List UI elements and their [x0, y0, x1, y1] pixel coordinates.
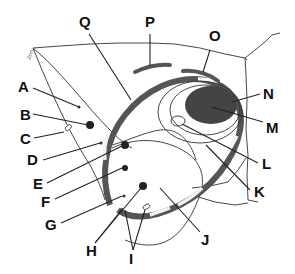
left-wedge-outer [33, 48, 105, 200]
diagram-canvas: 2cm [0, 0, 295, 274]
anatomical-diagram: 2cm [0, 0, 295, 274]
label-j: J [201, 231, 209, 248]
scale-bar-label: 2cm [25, 48, 34, 60]
lower-lobe-outline [112, 141, 203, 246]
label-o: O [209, 27, 221, 44]
label-q: Q [79, 13, 91, 30]
label-k: K [254, 183, 265, 200]
dark-mass [185, 86, 237, 124]
label-d: D [27, 151, 38, 168]
capsule-c [64, 124, 72, 132]
dot-g [122, 194, 125, 197]
label-m: M [266, 119, 279, 136]
dot-f [122, 165, 128, 171]
label-e: E [33, 175, 43, 192]
label-c: C [20, 130, 31, 147]
label-l: L [262, 155, 271, 172]
label-g: G [45, 216, 57, 233]
label-h: H [86, 242, 97, 259]
label-n: N [263, 85, 274, 102]
lower-right-contour [192, 158, 248, 205]
dot-e [121, 141, 129, 149]
arc-p [135, 65, 170, 72]
label-p: P [145, 13, 155, 30]
scale-bar: 2cm [25, 48, 34, 60]
label-i: I [129, 250, 133, 267]
left-wedge-inner [33, 48, 132, 148]
label-b: B [20, 106, 31, 123]
capsule-i [142, 203, 150, 210]
label-f: F [41, 193, 50, 210]
label-a: A [18, 78, 29, 95]
